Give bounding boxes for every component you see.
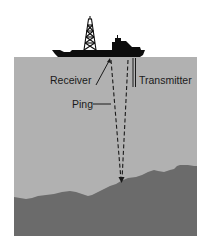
ship-superstructure bbox=[112, 35, 132, 50]
receiver-label: Receiver bbox=[50, 74, 92, 86]
transmitter-label: Transmitter bbox=[139, 74, 192, 86]
derrick-icon bbox=[84, 16, 96, 50]
echo-sounding-diagram: Receiver Transmitter Ping bbox=[0, 0, 205, 245]
ping-label: Ping bbox=[72, 98, 93, 110]
